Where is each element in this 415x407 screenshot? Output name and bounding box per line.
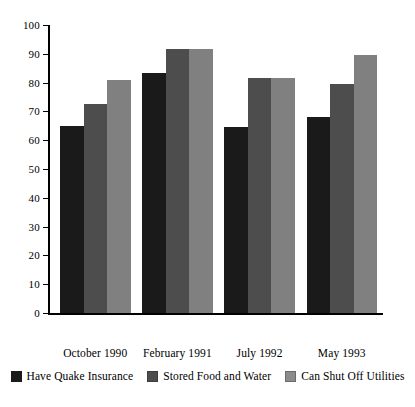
y-tick-label: 10 <box>29 279 40 290</box>
tick-mark-icon <box>43 169 48 170</box>
bar[interactable] <box>189 49 213 313</box>
x-axis-label: July 1992 <box>237 347 283 360</box>
bar-slot <box>354 25 378 313</box>
y-tick-label: 60 <box>29 135 40 146</box>
tick-mark-icon <box>43 255 48 256</box>
tick-mark-icon <box>43 54 48 55</box>
bar-group <box>307 25 378 313</box>
bar[interactable] <box>307 117 331 313</box>
bar-slot <box>248 25 272 313</box>
bar-slot <box>330 25 354 313</box>
tick-mark-icon <box>43 313 48 314</box>
legend-label: Can Shut Off Utilities <box>301 370 404 383</box>
y-tick-label: 20 <box>29 250 40 261</box>
plot-area: 0102030405060708090100 October 1990Febru… <box>48 25 383 313</box>
bar-group <box>142 25 213 313</box>
y-tick-label: 100 <box>23 20 40 31</box>
bar[interactable] <box>142 73 166 313</box>
y-tick-label: 80 <box>29 77 40 88</box>
bar-slot <box>142 25 166 313</box>
legend-item[interactable]: Can Shut Off Utilities <box>285 370 404 383</box>
x-axis-label: May 1993 <box>318 347 366 360</box>
legend-swatch-icon <box>147 371 158 382</box>
bar-slot <box>60 25 84 313</box>
bar-slot <box>224 25 248 313</box>
bar-slot <box>189 25 213 313</box>
x-axis-baseline <box>48 313 383 315</box>
y-tick-label: 30 <box>29 221 40 232</box>
x-axis-label: February 1991 <box>143 347 212 360</box>
y-tick-label: 40 <box>29 192 40 203</box>
legend-swatch-icon <box>11 371 22 382</box>
legend-label: Have Quake Insurance <box>27 370 134 383</box>
tick-mark-icon <box>43 140 48 141</box>
tick-mark-icon <box>43 227 48 228</box>
legend-swatch-icon <box>285 371 296 382</box>
bar[interactable] <box>271 78 295 313</box>
tick-mark-icon <box>43 83 48 84</box>
bar[interactable] <box>354 55 378 313</box>
y-tick-label: 0 <box>34 308 40 319</box>
legend-label: Stored Food and Water <box>163 370 271 383</box>
tick-mark-icon <box>43 284 48 285</box>
bar[interactable] <box>166 49 190 313</box>
bar-slot <box>107 25 131 313</box>
bar-slot <box>84 25 108 313</box>
y-tick-label: 50 <box>29 164 40 175</box>
bar[interactable] <box>107 80 131 313</box>
bar-group <box>60 25 131 313</box>
tick-mark-icon <box>43 25 48 26</box>
bar[interactable] <box>60 126 84 313</box>
bar[interactable] <box>224 127 248 313</box>
y-axis-line <box>48 25 50 314</box>
bar[interactable] <box>330 84 354 313</box>
tick-mark-icon <box>43 198 48 199</box>
bar-group <box>224 25 295 313</box>
bar[interactable] <box>248 78 272 313</box>
legend-item[interactable]: Have Quake Insurance <box>11 370 134 383</box>
chart-legend: Have Quake InsuranceStored Food and Wate… <box>0 370 415 383</box>
legend-item[interactable]: Stored Food and Water <box>147 370 271 383</box>
bar-slot <box>307 25 331 313</box>
x-axis-label: October 1990 <box>63 347 127 360</box>
bar[interactable] <box>84 104 108 313</box>
bar-slot <box>166 25 190 313</box>
y-tick-label: 90 <box>29 48 40 59</box>
bar-chart-figure: 0102030405060708090100 October 1990Febru… <box>0 0 415 407</box>
tick-mark-icon <box>43 111 48 112</box>
bar-slot <box>271 25 295 313</box>
y-tick-label: 70 <box>29 106 40 117</box>
